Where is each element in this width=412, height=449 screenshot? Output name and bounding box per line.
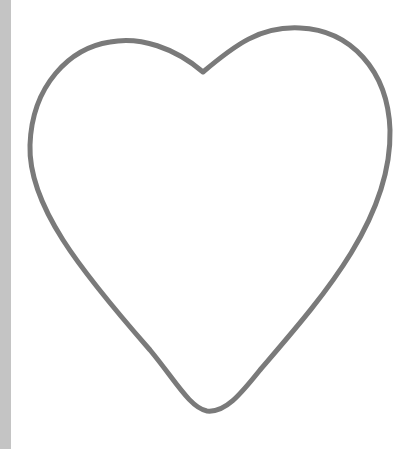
heart-canvas <box>0 0 412 449</box>
heart-outline-icon <box>30 28 390 411</box>
